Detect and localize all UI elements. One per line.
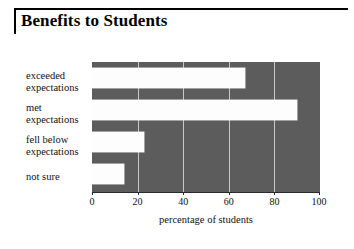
category-label-line-1: fell below [26,134,90,146]
category-label-line-2: expectations [26,82,90,94]
x-tick-mark-80 [274,192,275,195]
x-tick-label-40: 40 [168,196,198,208]
x-tick-mark-100 [319,192,320,195]
bar-not-sure [92,164,124,184]
category-label-line-1: exceeded [26,70,90,82]
x-tick-label-20: 20 [123,196,153,208]
category-label-line-2: expectations [26,146,90,158]
category-label-met-expectations: met expectations [26,102,90,125]
x-tick-mark-20 [138,192,139,195]
category-label-line-2: expectations [26,114,90,126]
x-tick-label-100: 100 [304,196,334,208]
x-tick-mark-60 [229,192,230,195]
category-label-line-1: met [26,102,90,114]
bar-chart-figure: exceeded expectations met expectations f… [0,0,354,249]
x-tick-mark-40 [183,192,184,195]
bar-fell-below-expectations [92,132,144,152]
category-label-line-1: not sure [26,171,90,183]
bar-met-expectations [92,100,297,120]
x-tick-label-80: 80 [259,196,289,208]
x-tick-mark-0 [92,192,93,195]
bar-exceeded-expectations [92,68,245,88]
category-label-exceeded-expectations: exceeded expectations [26,70,90,93]
category-label-not-sure: not sure [26,171,90,183]
x-axis-title: percentage of students [92,213,320,226]
category-label-fell-below-expectations: fell below expectations [26,134,90,157]
gridline-80 [274,62,275,192]
x-tick-label-60: 60 [214,196,244,208]
x-tick-label-0: 0 [77,196,107,208]
x-axis-line [92,192,320,193]
plot-area [92,62,320,192]
